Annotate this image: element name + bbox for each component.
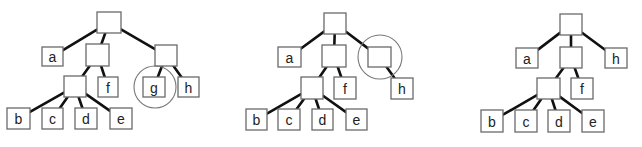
node-label: b	[253, 112, 261, 128]
node-f: f	[571, 78, 593, 99]
edge-root-n2	[346, 32, 368, 49]
tree-2: afhbcde	[246, 13, 413, 130]
node-root	[324, 13, 346, 34]
node-root	[560, 14, 582, 35]
node-label: f	[343, 81, 347, 97]
node-a: a	[516, 48, 538, 68]
edge-n3-d	[552, 99, 556, 110]
node-b: b	[481, 110, 503, 132]
node-d: d	[75, 108, 97, 129]
node-b: b	[7, 108, 30, 129]
node-c: c	[515, 110, 537, 132]
edge-root-a	[301, 32, 324, 49]
node-label: a	[523, 51, 531, 67]
node-h: h	[178, 77, 199, 97]
edge-root-a	[538, 33, 560, 50]
node-e: e	[110, 108, 132, 129]
edge-root-n2	[121, 29, 155, 49]
node-c: c	[42, 108, 63, 129]
node-label: d	[555, 114, 563, 130]
edge-n3-d	[79, 97, 83, 108]
node-label: a	[49, 49, 57, 65]
edge-n2-g	[158, 66, 162, 77]
node-d: d	[312, 109, 333, 130]
node-box	[368, 47, 391, 67]
node-box	[322, 45, 346, 67]
edge-n3-c	[297, 99, 304, 109]
edge-root-h	[582, 33, 605, 50]
node-d: d	[548, 110, 570, 132]
node-label: h	[398, 81, 406, 97]
node-n1	[322, 45, 346, 67]
node-e: e	[346, 109, 367, 130]
node-label: h	[185, 80, 193, 96]
node-g: g	[143, 77, 165, 97]
node-label: d	[319, 112, 327, 128]
node-n3	[64, 76, 86, 97]
node-box	[560, 14, 582, 35]
edge-n1-n3	[320, 67, 327, 77]
node-label: g	[150, 80, 158, 96]
node-label: a	[286, 50, 294, 66]
node-a: a	[278, 47, 301, 67]
node-label: e	[589, 114, 597, 130]
node-label: e	[117, 111, 125, 127]
node-label: b	[488, 114, 496, 130]
node-n3	[537, 78, 560, 99]
node-n2	[155, 45, 177, 66]
edge-n1-n3	[556, 68, 563, 78]
node-b: b	[246, 109, 267, 130]
node-label: d	[82, 111, 90, 127]
node-label: c	[523, 114, 530, 130]
node-label: e	[353, 112, 361, 128]
node-label: h	[612, 51, 620, 67]
tree-3: ahfbcde	[481, 14, 627, 132]
node-root	[97, 12, 121, 33]
edge-n3-c	[534, 99, 542, 110]
edge-root-n1	[101, 33, 105, 44]
node-label: f	[580, 81, 584, 97]
node-c: c	[278, 109, 300, 130]
node-n2	[368, 47, 391, 67]
node-e: e	[582, 110, 604, 132]
node-h: h	[391, 78, 413, 99]
node-box	[560, 47, 582, 68]
edge-n3-c	[60, 97, 68, 108]
node-n3	[301, 77, 323, 99]
node-box	[537, 78, 560, 99]
node-label: b	[15, 111, 23, 127]
node-f: f	[98, 77, 118, 97]
node-n1	[86, 44, 109, 66]
edge-n1-n3	[83, 66, 90, 76]
node-box	[86, 44, 109, 66]
node-box	[324, 13, 346, 34]
node-label: f	[106, 80, 110, 96]
node-label: c	[286, 112, 293, 128]
tree-1: afghbcde	[7, 12, 199, 129]
node-box	[301, 77, 323, 99]
edge-n1-f	[575, 68, 579, 78]
edge-n1-f	[338, 67, 341, 77]
edge-n1-f	[101, 66, 105, 77]
node-label: c	[49, 111, 56, 127]
node-a: a	[42, 47, 63, 66]
edge-n2-h	[174, 66, 182, 77]
node-f: f	[334, 77, 356, 99]
edge-n3-d	[316, 99, 319, 109]
node-box	[64, 76, 86, 97]
tree-diagram-canvas: afghbcdeafhbcdeahfbcde	[0, 0, 642, 147]
node-box	[97, 12, 121, 33]
node-h: h	[605, 48, 627, 68]
node-box	[155, 45, 177, 66]
node-n1	[560, 47, 582, 68]
